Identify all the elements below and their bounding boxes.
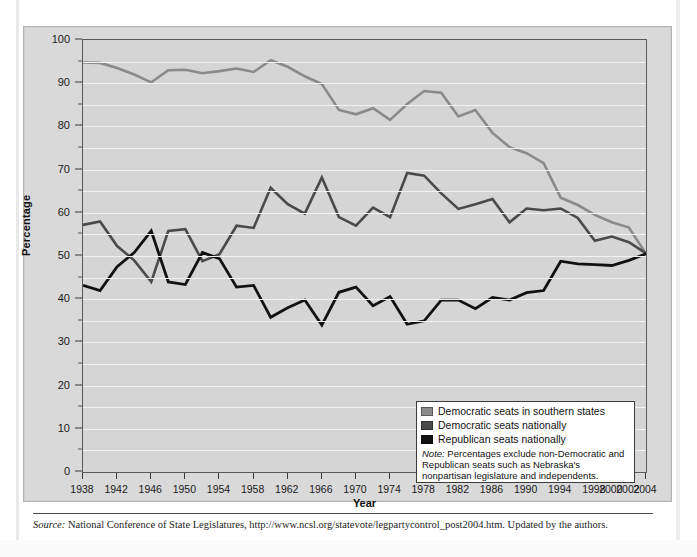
gridline: [83, 83, 646, 84]
chart-legend: Democratic seats in southern states Demo…: [416, 401, 635, 483]
y-tick-major: [75, 384, 82, 385]
gridline: [83, 342, 646, 343]
y-tick-label: 100: [52, 33, 70, 45]
gridline: [83, 364, 646, 365]
x-tick-mark: [184, 473, 185, 479]
x-tick-mark: [389, 473, 390, 479]
y-tick-major: [75, 255, 82, 256]
page-edge-left: [16, 0, 19, 557]
source-divider: [33, 513, 653, 514]
y-tick-major: [75, 125, 82, 126]
y-tick-label: 50: [58, 249, 70, 261]
y-tick-label: 20: [58, 379, 70, 391]
x-tick-label: 1994: [548, 483, 571, 495]
legend-label-democratic: Democratic seats nationally: [438, 420, 566, 431]
x-axis-title: Year: [82, 497, 647, 509]
legend-item-southern: Democratic seats in southern states: [421, 405, 630, 418]
gridline: [83, 213, 646, 214]
x-tick-mark: [218, 473, 219, 479]
gridline: [83, 234, 646, 235]
x-tick-mark: [150, 473, 151, 479]
y-tick-major: [75, 471, 82, 472]
y-tick-label: 80: [58, 119, 70, 131]
legend-item-republican: Republican seats nationally: [421, 433, 630, 446]
x-tick-label: 1986: [480, 483, 503, 495]
y-tick-major: [75, 341, 82, 342]
legend-swatch-democratic-icon: [421, 421, 433, 430]
legend-note: Note: Percentages exclude non-Democratic…: [421, 448, 630, 481]
gridline: [83, 170, 646, 171]
x-tick-label: 1970: [343, 483, 366, 495]
source-prefix: Source:: [33, 519, 65, 530]
x-tick-label: 1954: [207, 483, 230, 495]
legend-item-democratic: Democratic seats nationally: [421, 419, 630, 432]
y-tick-label: 30: [58, 335, 70, 347]
y-tick-major: [75, 39, 82, 40]
gridline: [83, 191, 646, 192]
gridline: [83, 62, 646, 63]
y-tick-major: [75, 427, 82, 428]
y-axis: 0102030405060708090100: [24, 39, 82, 473]
x-tick-label: 1974: [377, 483, 400, 495]
page-edge-bottom: [0, 540, 697, 557]
x-tick-mark: [287, 473, 288, 479]
y-tick-label: 60: [58, 206, 70, 218]
y-tick-major: [75, 82, 82, 83]
y-tick-label: 10: [58, 422, 70, 434]
legend-label-southern: Democratic seats in southern states: [438, 406, 605, 417]
gridline: [83, 299, 646, 300]
y-tick-label: 90: [58, 76, 70, 88]
gridline: [83, 126, 646, 127]
page-edge-right: [676, 0, 680, 557]
legend-note-text: Percentages exclude non-Democratic and R…: [422, 448, 624, 481]
y-tick-label: 40: [58, 292, 70, 304]
source-note: Source: National Conference of State Leg…: [33, 519, 663, 530]
x-tick-label: 1946: [139, 483, 162, 495]
y-tick-label: 70: [58, 163, 70, 175]
x-tick-mark: [321, 473, 322, 479]
legend-swatch-republican-icon: [421, 435, 433, 444]
x-tick-label: 1962: [275, 483, 298, 495]
x-tick-label: 1966: [309, 483, 332, 495]
series-line-southern: [83, 60, 646, 254]
gridline: [83, 278, 646, 279]
source-text: National Conference of State Legislature…: [65, 519, 608, 530]
y-tick-major: [75, 298, 82, 299]
x-tick-label: 1958: [241, 483, 264, 495]
x-tick-mark: [116, 473, 117, 479]
x-tick-label: 1990: [514, 483, 537, 495]
x-tick-label: 1938: [70, 483, 93, 495]
y-tick-major: [75, 168, 82, 169]
x-tick-label: 1978: [412, 483, 435, 495]
x-tick-mark: [645, 473, 646, 479]
legend-label-republican: Republican seats nationally: [438, 434, 566, 445]
gridline: [83, 148, 646, 149]
x-tick-mark: [355, 473, 356, 479]
legend-note-prefix: Note:: [422, 448, 445, 459]
figure-container: Percentage 0102030405060708090100 193819…: [23, 26, 672, 502]
x-tick-label: 1942: [104, 483, 127, 495]
x-tick-label: 1982: [446, 483, 469, 495]
y-tick-label: 0: [64, 465, 70, 477]
x-tick-mark: [253, 473, 254, 479]
x-tick-label: 1950: [173, 483, 196, 495]
series-line-democratic: [83, 173, 646, 282]
legend-swatch-southern-icon: [421, 407, 433, 416]
gridline: [83, 105, 646, 106]
gridline: [83, 321, 646, 322]
y-tick-major: [75, 211, 82, 212]
gridline: [83, 386, 646, 387]
x-tick-mark: [82, 473, 83, 479]
gridline: [83, 256, 646, 257]
x-tick-label: 2004: [633, 483, 656, 495]
